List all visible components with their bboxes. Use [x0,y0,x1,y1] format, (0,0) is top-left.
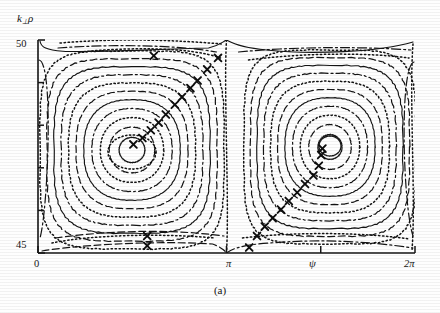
x-tick-label-pi: π [226,258,231,269]
separatrix-top-right [227,40,413,52]
separatrix-vertical-pi [226,40,228,253]
orbit-marker [204,66,211,73]
x-axis-label: ψ [309,257,316,269]
right-island-level-4 [285,98,375,197]
separatrix-bottom-right [227,241,413,253]
orbit-marker [155,119,162,126]
orbit-marker [302,181,309,188]
left-island-level-0 [119,137,145,163]
left-island-core [108,135,156,169]
y-tick-label-45: 45 [16,239,27,250]
axis-frame [38,40,415,253]
outer-stream-top-5 [60,40,222,44]
orbit-marker [147,127,154,134]
right-island-level-6 [270,81,390,213]
orbit-marker [171,101,178,108]
contour-figure: k⊥ρ 50 45 0 π 2π ψ (a) [0,0,440,313]
axis-tick-group [38,40,415,253]
right-island-level-3 [292,106,367,188]
y-tick-label-50: 50 [16,38,27,49]
x-tick-label-0: 0 [34,258,39,269]
right-island-level-9 [250,57,410,236]
contour-plot-canvas [0,0,440,313]
orbit-marker [294,189,301,196]
outer-stream-bot-2 [243,234,409,239]
contour-line-group [39,40,416,253]
orbit-marker [130,141,137,148]
figure-caption: (a) [0,284,440,296]
separatrix-vertical-2pi [412,44,414,250]
orbit-marker [278,206,285,213]
orbit-marker [315,162,322,169]
orbit-marker [150,52,157,59]
orbit-marker [319,145,326,152]
outer-stream-top-4 [249,54,409,60]
orbit-marker [179,94,186,101]
orbit-marker [269,215,276,222]
x-tick-label-2pi: 2π [404,258,415,269]
orbit-marker [162,111,169,118]
y-axis-label: k⊥ρ [17,12,33,26]
